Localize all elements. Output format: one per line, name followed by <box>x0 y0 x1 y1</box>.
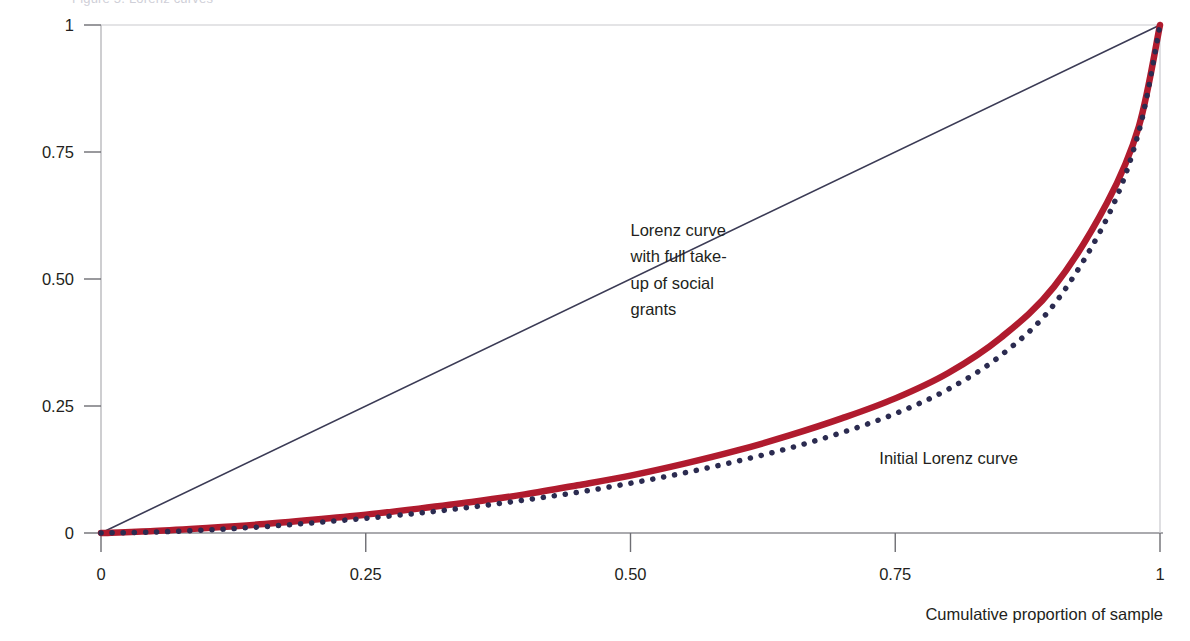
annotation-lorenz-full-takeup: Lorenz curvewith full take-up of socialg… <box>630 221 727 319</box>
y-axis-ticks: 00.250.500.751 <box>42 16 101 542</box>
x-tick-label: 1 <box>1155 565 1164 583</box>
annotation-line: grants <box>631 300 677 318</box>
figure-container: Figure 5. Lorenz curves 00.250.500.751 0… <box>0 0 1190 641</box>
x-tick-label: 0 <box>96 565 105 583</box>
annotation-line: with full take- <box>630 247 727 265</box>
x-axis-ticks: 00.250.500.751 <box>96 533 1164 583</box>
x-tick-label: 0.50 <box>614 565 646 583</box>
x-tick-label: 0.25 <box>350 565 382 583</box>
y-tick-label: 0.50 <box>42 270 74 288</box>
annotation-line: Initial Lorenz curve <box>879 449 1018 467</box>
annotation-line: up of social <box>631 274 714 292</box>
x-tick-label: 0.75 <box>879 565 911 583</box>
y-tick-label: 1 <box>65 16 74 34</box>
y-tick-label: 0.25 <box>42 397 74 415</box>
chart-annotations-group: Lorenz curvewith full take-up of socialg… <box>630 221 1018 468</box>
annotation-line: Lorenz curve <box>631 221 726 239</box>
y-tick-label: 0 <box>65 524 74 542</box>
x-axis-title: Cumulative proportion of sample <box>925 605 1163 623</box>
lorenz-curve-chart: 00.250.500.751 00.250.500.751 Lorenz cur… <box>0 0 1190 641</box>
annotation-initial-lorenz: Initial Lorenz curve <box>879 449 1018 467</box>
y-tick-label: 0.75 <box>42 143 74 161</box>
